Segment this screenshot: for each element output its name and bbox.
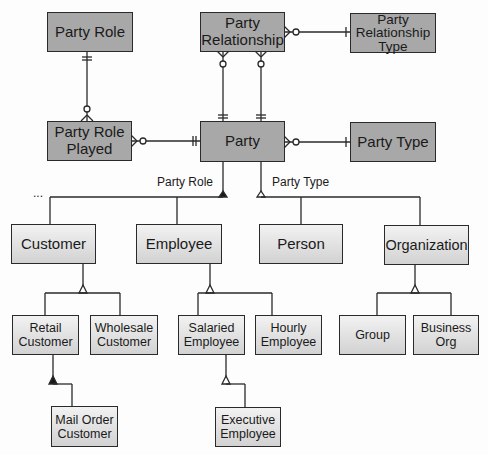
entity-business-org[interactable]: Business Org xyxy=(413,315,479,355)
entity-party-relationship-type[interactable]: Party Relationship Type xyxy=(350,13,436,53)
entity-salaried-employee[interactable]: Salaried Employee xyxy=(178,315,245,355)
entity-executive-employee[interactable]: Executive Employee xyxy=(215,407,281,447)
entity-employee[interactable]: Employee xyxy=(136,224,222,264)
entity-party-type[interactable]: Party Type xyxy=(350,122,436,162)
entity-party-role-played[interactable]: Party Role Played xyxy=(47,121,132,161)
er-diagram: ... Party Role Party Type Party Role Par… xyxy=(0,0,488,455)
entity-organization[interactable]: Organization xyxy=(384,225,469,265)
entity-party-relationship[interactable]: Party Relationship xyxy=(200,12,285,52)
ellipsis: ... xyxy=(33,186,43,200)
entity-retail-customer[interactable]: Retail Customer xyxy=(12,315,79,355)
entity-wholesale-customer[interactable]: Wholesale Customer xyxy=(90,315,158,355)
entity-person[interactable]: Person xyxy=(259,224,343,264)
entity-party-role[interactable]: Party Role xyxy=(47,12,133,52)
entity-party[interactable]: Party xyxy=(200,121,285,162)
party-role-subtype-label: Party Role xyxy=(157,175,213,189)
entity-hourly-employee[interactable]: Hourly Employee xyxy=(255,315,322,355)
party-type-subtype-label: Party Type xyxy=(272,175,329,189)
entity-mail-order-customer[interactable]: Mail Order Customer xyxy=(51,406,118,447)
entity-customer[interactable]: Customer xyxy=(11,224,96,264)
entity-group[interactable]: Group xyxy=(339,315,406,355)
